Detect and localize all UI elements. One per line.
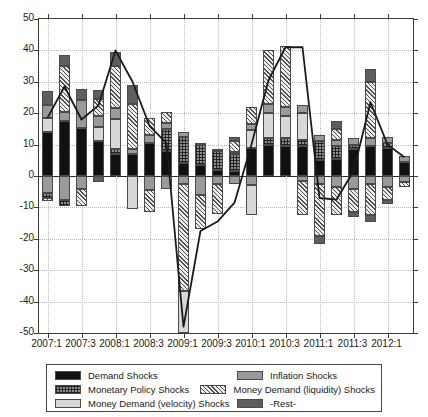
x-axis-tick-top — [252, 14, 253, 19]
x-axis-tick-top — [354, 14, 355, 19]
y-axis-tick-right — [413, 50, 418, 51]
y-axis-tick — [34, 239, 39, 240]
legend-label: Monetary Policy Shocks — [88, 385, 189, 395]
y-axis-tick — [34, 176, 39, 177]
legend-item[interactable]: Monetary Policy Shocks — [55, 385, 200, 395]
legend-swatch-icon — [55, 399, 81, 408]
legend-item[interactable]: Demand Shocks — [55, 371, 237, 381]
y-axis-tick-label: 10 — [0, 139, 34, 149]
x-axis-tick-top — [286, 14, 287, 19]
plot-area — [38, 18, 414, 334]
line-series-rest — [48, 47, 405, 326]
legend-label: Money Demand (velocity) Shocks — [88, 399, 230, 409]
legend-swatch-icon — [55, 385, 81, 394]
y-axis-tick — [34, 207, 39, 208]
x-axis-tick-top — [218, 14, 219, 19]
y-axis-tick-right — [413, 145, 418, 146]
y-axis-tick-right — [413, 333, 418, 334]
y-axis-tick-label: -10 — [0, 201, 34, 211]
legend-item[interactable]: Money Demand (liquidity) Shocks — [200, 385, 375, 395]
legend-label: -Rest- — [270, 399, 296, 409]
y-axis-tick-right — [413, 270, 418, 271]
legend-label: Money Demand (liquidity) Shocks — [233, 385, 375, 395]
chart-figure: 50403020100-10-20-30-40-502007:12007:320… — [0, 0, 428, 417]
chart-legend: Demand ShocksInflation ShocksMonetary Po… — [46, 364, 382, 412]
x-axis-tick-top — [184, 14, 185, 19]
y-axis-tick-right — [413, 302, 418, 303]
y-axis-tick — [34, 302, 39, 303]
y-axis-tick-right — [413, 113, 418, 114]
y-axis-tick-label: -20 — [0, 233, 34, 243]
x-axis-tick-top — [150, 14, 151, 19]
legend-swatch-icon — [237, 371, 263, 380]
y-axis-tick — [34, 333, 39, 334]
y-axis-tick-label: -40 — [0, 296, 34, 306]
y-axis-tick-label: -30 — [0, 264, 34, 274]
legend-row: Demand ShocksInflation Shocks — [55, 369, 375, 382]
legend-item[interactable]: Money Demand (velocity) Shocks — [55, 399, 237, 409]
x-axis-tick-top — [48, 14, 49, 19]
y-axis-tick-right — [413, 176, 418, 177]
legend-swatch-icon — [200, 385, 226, 394]
x-axis-tick-top — [388, 14, 389, 19]
x-axis-tick-top — [320, 14, 321, 19]
legend-label: Demand Shocks — [88, 371, 158, 381]
y-axis-tick-label: 20 — [0, 107, 34, 117]
legend-row: Monetary Policy ShocksMoney Demand (liqu… — [55, 383, 375, 396]
y-axis-tick — [34, 19, 39, 20]
y-axis-tick-label: -50 — [0, 327, 34, 337]
y-axis-tick — [34, 113, 39, 114]
y-axis-tick-label: 30 — [0, 76, 34, 86]
y-axis-tick-right — [413, 207, 418, 208]
x-axis-tick-top — [82, 14, 83, 19]
y-axis-tick-right — [413, 82, 418, 83]
legend-item[interactable]: -Rest- — [237, 399, 375, 409]
y-axis-tick-right — [413, 239, 418, 240]
legend-swatch-icon — [237, 399, 263, 408]
legend-swatch-icon — [55, 371, 81, 380]
y-axis-tick — [34, 82, 39, 83]
y-axis-tick — [34, 50, 39, 51]
y-axis-tick-right — [413, 19, 418, 20]
x-axis-tick-top — [116, 14, 117, 19]
x-axis-tick-label: 2012:1 — [359, 338, 415, 349]
legend-row: Money Demand (velocity) Shocks-Rest- — [55, 397, 375, 410]
line-series-overlay — [39, 19, 413, 333]
y-axis-tick-label: 40 — [0, 44, 34, 54]
y-axis-tick-label: 0 — [0, 170, 34, 180]
legend-label: Inflation Shocks — [270, 371, 337, 381]
legend-item[interactable]: Inflation Shocks — [237, 371, 375, 381]
y-axis-tick — [34, 145, 39, 146]
y-axis-tick-label: 50 — [0, 13, 34, 23]
y-axis-tick — [34, 270, 39, 271]
